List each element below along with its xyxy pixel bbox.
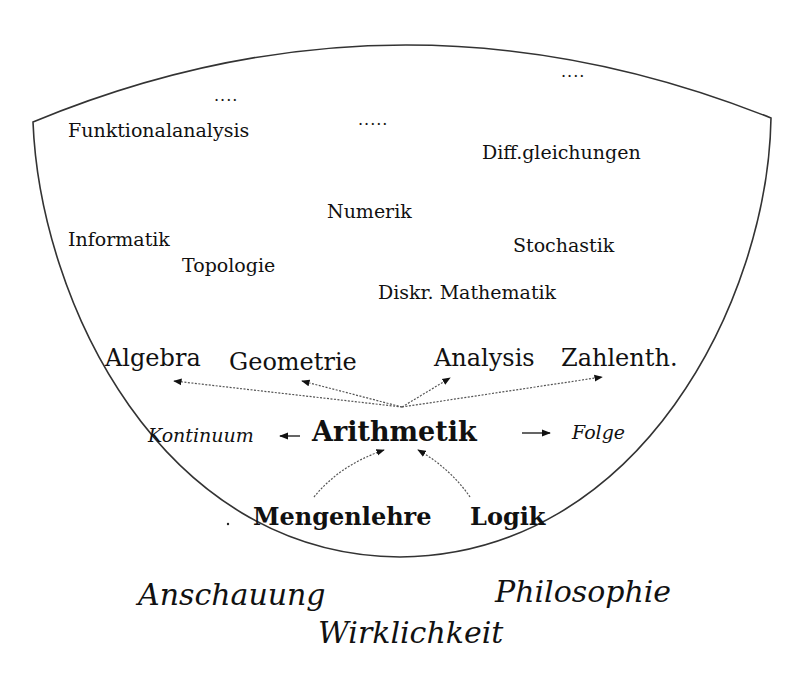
stray-mark	[227, 523, 229, 525]
label-wirklichkeit: Wirklichkeit	[318, 618, 503, 648]
arrow-to-algebra	[174, 381, 402, 407]
label-kontinuum: Kontinuum	[148, 426, 254, 445]
label-philosophie: Philosophie	[495, 577, 671, 607]
arrow-from-logik	[418, 450, 470, 497]
label-funktionalanalysis: Funktionalanalysis	[68, 121, 249, 140]
bowl-diagram	[0, 0, 797, 679]
label-folge: Folge	[572, 423, 625, 442]
label-topologie: Topologie	[182, 256, 275, 275]
label-numerik: Numerik	[327, 202, 412, 221]
ellipsis-1: ....	[214, 88, 238, 104]
label-algebra: Algebra	[105, 346, 201, 370]
label-mengenlehre: Mengenlehre	[253, 505, 432, 529]
label-diffgleichungen: Diff.gleichungen	[482, 143, 641, 162]
arrow-to-geometrie	[302, 381, 402, 407]
arrow-to-analysis	[402, 378, 450, 407]
label-diskr-mathematik: Diskr. Mathematik	[378, 283, 556, 302]
label-analysis: Analysis	[434, 346, 535, 370]
label-informatik: Informatik	[68, 230, 170, 249]
label-anschauung: Anschauung	[138, 580, 326, 610]
label-zahlentheorie: Zahlenth.	[561, 346, 678, 370]
label-arithmetik: Arithmetik	[312, 418, 477, 445]
label-logik: Logik	[470, 505, 545, 529]
ellipsis-2: .....	[358, 112, 388, 128]
label-stochastik: Stochastik	[513, 236, 614, 255]
arrow-to-zahlentheorie	[402, 377, 602, 407]
label-geometrie: Geometrie	[229, 350, 357, 374]
ellipsis-3: ....	[561, 64, 585, 80]
arrow-from-mengenlehre	[314, 450, 384, 497]
